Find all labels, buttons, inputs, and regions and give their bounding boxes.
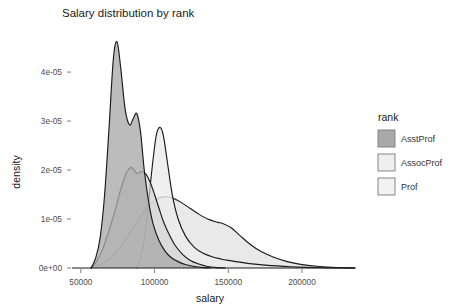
- y-tick-label: 4e-05: [41, 67, 63, 77]
- legend-label-prof: Prof: [401, 182, 418, 192]
- y-tick-label: 2e-05: [41, 165, 63, 175]
- y-axis-title: density: [10, 155, 22, 189]
- x-tick-label: 200000: [288, 277, 316, 287]
- legend-title: rank: [378, 111, 399, 123]
- density-plot-figure: Salary distribution by rank density sala…: [0, 0, 462, 308]
- chart-canvas: Salary distribution by rank density sala…: [0, 0, 462, 308]
- legend-label-asstprof: AsstProf: [401, 134, 436, 144]
- legend-key-assocprof[interactable]: [378, 154, 395, 171]
- legend-key-prof[interactable]: [378, 178, 395, 195]
- chart-title: Salary distribution by rank: [62, 7, 195, 19]
- y-tick-label: 1e-05: [41, 214, 63, 224]
- x-tick-label: 100000: [141, 277, 169, 287]
- legend-key-asstprof[interactable]: [378, 130, 395, 147]
- legend-label-assocprof: AssocProf: [401, 158, 443, 168]
- x-axis-title: salary: [196, 292, 225, 304]
- y-tick-label: 3e-05: [41, 116, 63, 126]
- x-tick-label: 150000: [214, 277, 242, 287]
- x-tick-label: 50000: [69, 277, 92, 287]
- y-tick-label: 0e+00: [39, 263, 63, 273]
